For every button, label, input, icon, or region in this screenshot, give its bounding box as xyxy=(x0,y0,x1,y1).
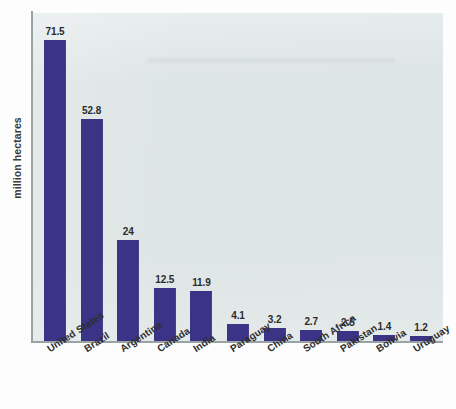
x-axis-labels: United StatesBrazilArgentinaCanadaIndiaP… xyxy=(33,341,443,409)
bar-uruguay: 1.2 xyxy=(410,13,432,341)
bar-brazil: 52.8 xyxy=(81,13,103,341)
bar-value-label: 11.9 xyxy=(192,277,211,288)
bar-paraguay: 4.1 xyxy=(227,13,249,341)
bar-united-states: 71.5 xyxy=(44,13,66,341)
bar-value-label: 1.4 xyxy=(378,321,392,332)
bar-value-label: 71.5 xyxy=(45,26,64,37)
bar-value-label: 4.1 xyxy=(231,310,245,321)
bar-rect xyxy=(117,240,139,341)
bar-china: 3.2 xyxy=(264,13,286,341)
bar-chart-figure: million hectares 71.552.82412.511.94.13.… xyxy=(0,0,456,409)
y-axis-title: million hectares xyxy=(11,98,23,218)
bar-rect xyxy=(81,119,103,341)
bars-layer: 71.552.82412.511.94.13.22.72.51.41.2 xyxy=(33,13,443,341)
bar-value-label: 12.5 xyxy=(155,274,174,285)
bar-value-label: 24 xyxy=(123,226,134,237)
bar-value-label: 1.2 xyxy=(414,322,428,333)
bar-india: 11.9 xyxy=(190,13,212,341)
bar-canada: 12.5 xyxy=(154,13,176,341)
bar-rect xyxy=(44,40,66,341)
bar-south-africa: 2.7 xyxy=(300,13,322,341)
bar-value-label: 52.8 xyxy=(82,105,101,116)
bar-bolivia: 1.4 xyxy=(373,13,395,341)
bar-argentina: 24 xyxy=(117,13,139,341)
bar-pakistan: 2.5 xyxy=(337,13,359,341)
bar-value-label: 3.2 xyxy=(268,314,282,325)
bar-value-label: 2.7 xyxy=(304,316,318,327)
